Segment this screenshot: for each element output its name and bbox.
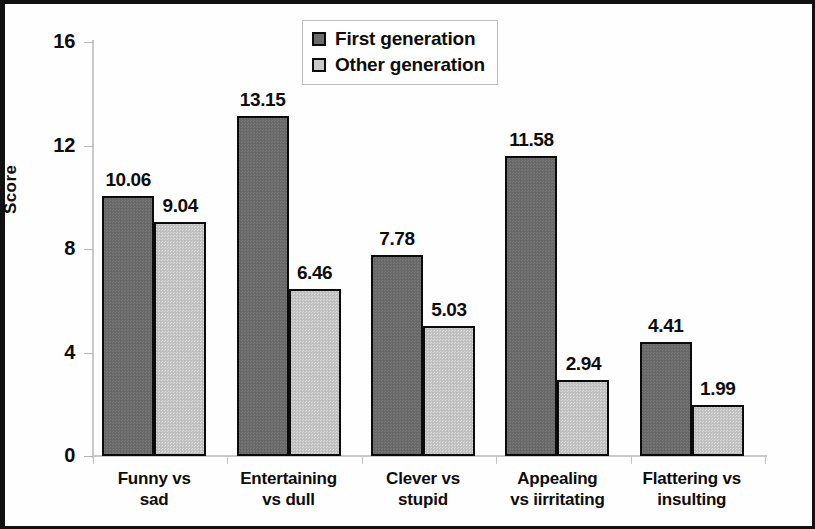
- category-label-line: vs dull: [221, 489, 355, 510]
- legend-swatch-icon-first-generation: [312, 32, 326, 46]
- legend-swatch-icon-other-generation: [312, 58, 326, 72]
- legend-label-other-generation: Other generation: [335, 54, 485, 76]
- bar-other-generation: [692, 405, 744, 456]
- y-axis-tick-labels: 0481216: [25, 4, 75, 529]
- x-axis-separator: [496, 456, 497, 464]
- bar-value-label: 13.15: [229, 89, 297, 111]
- bar-value-label: 5.03: [415, 299, 483, 321]
- y-axis-tick-label: 8: [29, 237, 75, 260]
- y-axis-tick-label: 12: [29, 134, 75, 157]
- bar-value-label: 9.04: [146, 195, 214, 217]
- bar-value-label: 11.58: [497, 129, 565, 151]
- bar-other-generation: [557, 380, 609, 456]
- legend-item-other-generation: Other generation: [312, 52, 485, 78]
- bar-first-generation: [371, 255, 423, 456]
- legend-item-first-generation: First generation: [312, 26, 485, 52]
- category-label-line: Entertaining: [221, 468, 355, 489]
- bar-value-label: 1.99: [684, 378, 752, 400]
- y-axis-tick-mark: [84, 146, 93, 147]
- category-label-line: Clever vs: [356, 468, 490, 489]
- y-axis-tick-mark: [84, 353, 93, 354]
- bar-value-label: 4.41: [632, 315, 700, 337]
- y-axis-title: Score: [1, 165, 21, 214]
- category-label-line: stupid: [356, 489, 490, 510]
- x-axis-separator: [93, 456, 94, 464]
- x-axis-category-label: Flattering vsinsulting: [625, 468, 759, 510]
- y-axis-tick-label: 0: [29, 444, 75, 467]
- category-label-line: sad: [87, 489, 221, 510]
- x-axis-category-label: Entertainingvs dull: [221, 468, 355, 510]
- bar-first-generation: [102, 196, 154, 456]
- x-axis-separator: [362, 456, 363, 464]
- chart-legend: First generation Other generation: [302, 20, 498, 85]
- x-axis-category-label: Clever vsstupid: [356, 468, 490, 510]
- bar-other-generation: [289, 289, 341, 456]
- legend-label-first-generation: First generation: [335, 28, 475, 50]
- plot-area: 10.069.0413.156.467.785.0311.582.944.411…: [93, 42, 765, 456]
- x-axis-separator: [631, 456, 632, 464]
- bar-chart-figure: Score 0481216 10.069.0413.156.467.785.03…: [0, 0, 815, 529]
- bar-value-label: 6.46: [281, 262, 349, 284]
- y-axis-tick-mark: [84, 249, 93, 250]
- y-axis-tick-mark: [84, 456, 93, 457]
- category-label-line: Flattering vs: [625, 468, 759, 489]
- bar-value-label: 2.94: [549, 353, 617, 375]
- x-axis-category-label: Appealingvs iirritating: [490, 468, 624, 510]
- x-axis-separator: [765, 456, 766, 464]
- bar-other-generation: [154, 222, 206, 456]
- bar-other-generation: [423, 326, 475, 456]
- y-axis-tick-label: 4: [29, 341, 75, 364]
- bar-first-generation: [237, 116, 289, 456]
- y-axis-tick-label: 16: [29, 30, 75, 53]
- bar-value-label: 10.06: [94, 169, 162, 191]
- y-axis-tick-mark: [84, 42, 93, 43]
- category-label-line: Funny vs: [87, 468, 221, 489]
- x-axis-separator: [227, 456, 228, 464]
- category-label-line: Appealing: [490, 468, 624, 489]
- category-label-line: vs iirritating: [490, 489, 624, 510]
- bar-first-generation: [505, 156, 557, 456]
- x-axis-category-label: Funny vssad: [87, 468, 221, 510]
- category-label-line: insulting: [625, 489, 759, 510]
- bar-value-label: 7.78: [363, 228, 431, 250]
